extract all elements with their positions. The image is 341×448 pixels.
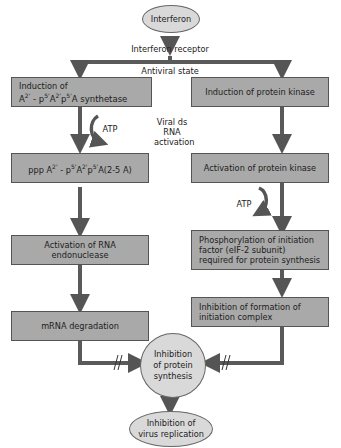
protein-synthesis-inhibition-node: Inhibition of protein synthesis	[140, 333, 206, 398]
interferon-node: Interferon	[142, 5, 200, 33]
virus-replication-inhibition-node: Inhibition of virus replication	[129, 411, 213, 447]
box-formula: ppp A2' - p5'A2'p5'A(2-5 A)	[28, 162, 131, 175]
protein-kinase-activation-box: Activation of protein kinase	[191, 153, 329, 183]
box-text: Induction of	[19, 81, 68, 91]
synthetase-induction-box: Induction of A2' - p5'A2'p5'A synthetase	[11, 77, 152, 107]
protein-kinase-induction-box: Induction of protein kinase	[191, 77, 329, 107]
box-text: Induction of protein kinase	[205, 87, 315, 97]
box-text: Phosphorylation of initiation factor (eI…	[199, 235, 321, 265]
atp-right-label: ATP	[234, 199, 254, 209]
viral-activation-label: Viral ds RNA activation	[154, 117, 190, 147]
2-5a-box: ppp A2' - p5'A2'p5'A(2-5 A)	[11, 153, 149, 183]
box-text: Inhibition of formation of initiation co…	[199, 302, 321, 322]
mrna-degradation-box: mRNA degradation	[11, 311, 149, 341]
node-text: Inhibition of protein synthesis	[149, 349, 197, 382]
box-formula: A2' - p5'A2'p5'A synthetase	[19, 91, 127, 104]
endonuclease-box: Activation of RNA endonuclease	[11, 235, 149, 265]
phosphorylation-box: Phosphorylation of initiation factor (eI…	[191, 230, 329, 270]
interferon-label: Interferon	[151, 14, 192, 25]
box-text: Activation of protein kinase	[204, 163, 316, 173]
box-text: Activation of RNA endonuclease	[19, 240, 141, 260]
box-text: mRNA degradation	[41, 321, 119, 331]
atp-left-label: ATP	[100, 124, 120, 134]
antiviral-state-label: Antiviral state	[130, 66, 210, 76]
node-text: Inhibition of virus replication	[138, 418, 204, 440]
initiation-complex-box: Inhibition of formation of initiation co…	[191, 297, 329, 327]
receptor-label: Interferon receptor	[110, 44, 230, 54]
